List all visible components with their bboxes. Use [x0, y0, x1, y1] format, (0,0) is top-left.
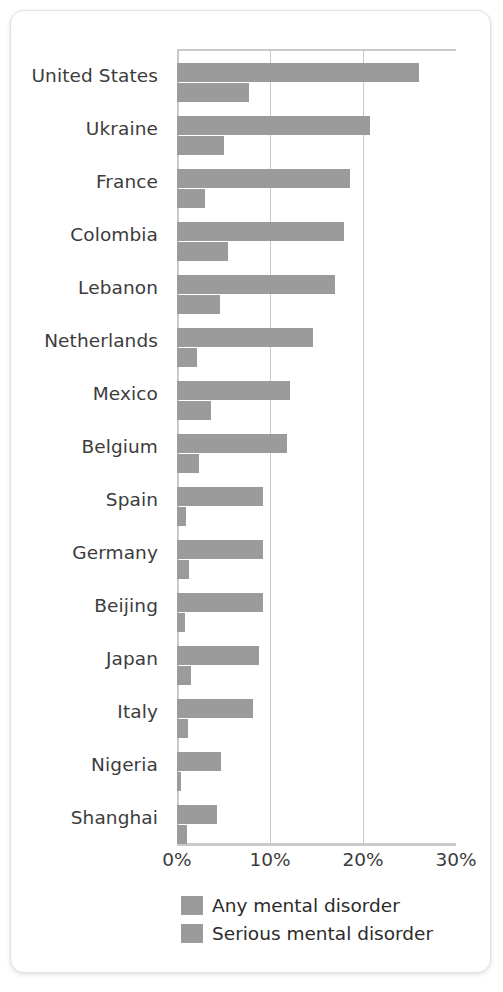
- category-label-lebanon: Lebanon: [10, 277, 158, 298]
- y-axis-tick-labels: United StatesUkraineFranceColombiaLebano…: [11, 49, 171, 844]
- bar-serious: [177, 507, 186, 526]
- bars-layer: [177, 49, 456, 844]
- bar-any: [177, 646, 259, 665]
- category-label-spain: Spain: [10, 489, 158, 510]
- bar-group-united-states: [177, 57, 456, 110]
- bar-group-italy: [177, 693, 456, 746]
- bar-any: [177, 487, 263, 506]
- category-label-japan: Japan: [10, 648, 158, 669]
- x-tick-label: 10%: [249, 849, 290, 870]
- category-label-beijing: Beijing: [10, 595, 158, 616]
- category-label-italy: Italy: [10, 701, 158, 722]
- bar-serious: [177, 242, 228, 261]
- bar-group-germany: [177, 534, 456, 587]
- bar-any: [177, 222, 344, 241]
- bar-group-france: [177, 163, 456, 216]
- bar-serious: [177, 825, 187, 844]
- legend-item[interactable]: Any mental disorder: [11, 891, 491, 919]
- category-label-united-states: United States: [10, 65, 158, 86]
- bar-group-colombia: [177, 216, 456, 269]
- bar-group-belgium: [177, 428, 456, 481]
- category-label-nigeria: Nigeria: [10, 754, 158, 775]
- x-tick-label: 30%: [435, 849, 476, 870]
- x-axis-tick-labels: 0%10%20%30%: [177, 849, 456, 879]
- legend-label: Serious mental disorder: [212, 923, 433, 944]
- bar-any: [177, 752, 221, 771]
- bar-serious: [177, 719, 188, 738]
- bar-serious: [177, 613, 185, 632]
- bar-any: [177, 116, 370, 135]
- bar-any: [177, 593, 263, 612]
- category-label-germany: Germany: [10, 542, 158, 563]
- bar-any: [177, 328, 313, 347]
- bar-serious: [177, 83, 249, 102]
- gridline-30: [456, 49, 457, 844]
- bar-chart: United StatesUkraineFranceColombiaLebano…: [11, 11, 491, 973]
- category-label-ukraine: Ukraine: [10, 118, 158, 139]
- bar-any: [177, 381, 290, 400]
- bar-any: [177, 699, 253, 718]
- bar-serious: [177, 454, 199, 473]
- legend-swatch-icon: [181, 924, 203, 943]
- bar-any: [177, 540, 263, 559]
- bar-group-shanghai: [177, 799, 456, 852]
- x-tick-label: 0%: [162, 849, 191, 870]
- bar-group-spain: [177, 481, 456, 534]
- bar-serious: [177, 560, 189, 579]
- figure-card: United StatesUkraineFranceColombiaLebano…: [10, 10, 491, 973]
- bar-any: [177, 805, 217, 824]
- category-label-netherlands: Netherlands: [10, 330, 158, 351]
- legend-label: Any mental disorder: [212, 895, 400, 916]
- bar-group-nigeria: [177, 746, 456, 799]
- category-label-belgium: Belgium: [10, 436, 158, 457]
- category-label-france: France: [10, 171, 158, 192]
- x-tick-label: 20%: [342, 849, 383, 870]
- bar-serious: [177, 772, 181, 791]
- bar-group-lebanon: [177, 269, 456, 322]
- bar-any: [177, 63, 419, 82]
- bar-group-ukraine: [177, 110, 456, 163]
- bar-group-netherlands: [177, 322, 456, 375]
- bar-serious: [177, 666, 191, 685]
- category-label-mexico: Mexico: [10, 383, 158, 404]
- bar-any: [177, 434, 287, 453]
- bar-any: [177, 275, 335, 294]
- category-label-shanghai: Shanghai: [10, 807, 158, 828]
- bar-group-japan: [177, 640, 456, 693]
- chart-legend: Any mental disorderSerious mental disord…: [11, 891, 491, 947]
- bar-group-mexico: [177, 375, 456, 428]
- bar-serious: [177, 295, 220, 314]
- bar-serious: [177, 401, 211, 420]
- legend-item[interactable]: Serious mental disorder: [11, 919, 491, 947]
- bar-any: [177, 169, 350, 188]
- bar-serious: [177, 136, 224, 155]
- bar-serious: [177, 348, 197, 367]
- bar-group-beijing: [177, 587, 456, 640]
- category-label-colombia: Colombia: [10, 224, 158, 245]
- legend-swatch-icon: [181, 896, 203, 915]
- bar-serious: [177, 189, 205, 208]
